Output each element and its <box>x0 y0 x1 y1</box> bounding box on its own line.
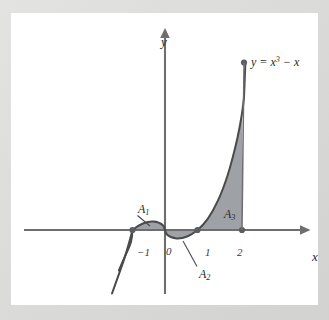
region-label-a1: A1 <box>138 203 149 217</box>
y-axis-label: y <box>161 35 167 48</box>
figure-panel: y x y = x3 − x A1 A2 A3 −1 0 1 2 <box>11 13 318 305</box>
curve-equation-label: y = x3 − x <box>251 56 299 68</box>
x-tick-label-two: 2 <box>237 247 243 258</box>
x-axis-arrowhead <box>300 225 311 235</box>
region-label-a2-sub: 2 <box>206 273 210 282</box>
x-tick-label-zero: 0 <box>166 246 172 257</box>
point-neg1-0 <box>129 227 135 233</box>
x-axis-label: x <box>312 250 318 263</box>
x-tick-label-neg1: −1 <box>137 247 150 258</box>
region-label-a1-sub: 1 <box>145 208 149 217</box>
region-label-a3-sub: 3 <box>231 213 235 222</box>
vertical-boundary-x2 <box>242 63 244 231</box>
x-tick-label-one: 1 <box>205 247 211 258</box>
curve-left-tail <box>112 230 133 294</box>
point-1-0 <box>194 227 200 233</box>
region-label-a2: A2 <box>199 268 210 282</box>
region-label-a3: A3 <box>224 208 235 222</box>
curve-equation-suffix: − x <box>280 55 299 69</box>
leader-line-a2 <box>183 241 197 267</box>
curve-cubic <box>119 63 245 271</box>
curve-equation-prefix: y = x <box>251 55 276 69</box>
